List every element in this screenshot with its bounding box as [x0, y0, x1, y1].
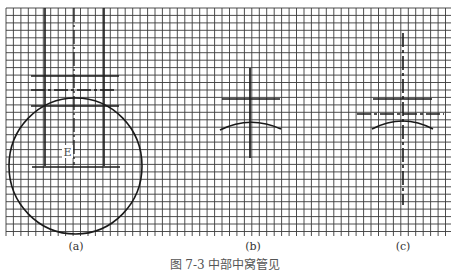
- figure-caption: 图 7-3 中部中窝管见: [170, 255, 281, 272]
- panel-a-drawing: [9, 8, 142, 234]
- panel-b-label: (b): [245, 240, 261, 253]
- graph-paper-grid: [6, 8, 451, 236]
- panel-a-label: (a): [68, 240, 83, 253]
- panel-a-circle: [9, 98, 142, 234]
- panel-c-label: (c): [396, 240, 411, 253]
- panel-a-annotation-e: E: [63, 146, 71, 159]
